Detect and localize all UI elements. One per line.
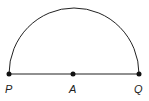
label-q: Q (134, 83, 143, 95)
point-q (137, 72, 142, 77)
point-a (71, 72, 76, 77)
semicircle-diagram: P A Q (0, 0, 149, 101)
point-p (7, 72, 12, 77)
label-a: A (68, 83, 76, 95)
label-p: P (5, 83, 13, 95)
semicircle-arc (9, 8, 139, 74)
